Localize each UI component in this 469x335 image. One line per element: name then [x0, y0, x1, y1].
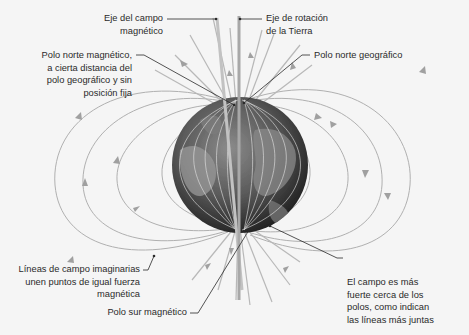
label-line: de la Tierra — [266, 25, 376, 38]
label-line: polos, como indican — [347, 301, 465, 314]
label-line: a cierta distancia del — [10, 62, 132, 75]
label-magnetic-south-pole: Polo sur magnético — [70, 306, 187, 319]
label-line: Eje de rotación — [266, 12, 376, 25]
diagram-canvas: Eje del campo magnético Eje de rotación … — [0, 0, 469, 335]
label-field-strength: El campo es más fuerte cerca de los polo… — [347, 276, 465, 326]
label-line: El campo es más — [347, 276, 465, 289]
label-line: Polo sur magnético — [70, 306, 187, 319]
label-line: fuerte cerca de los — [347, 289, 465, 302]
label-line: Eje del campo — [70, 12, 163, 25]
label-line: magnético — [70, 25, 163, 38]
label-line: Polo norte magnético, — [10, 49, 132, 62]
label-line: polo geográfico y sin — [10, 74, 132, 87]
label-rotation-axis: Eje de rotación de la Tierra — [266, 12, 376, 37]
label-field-lines: Líneas de campo imaginarias unen puntos … — [4, 263, 140, 301]
label-line: posición fija — [10, 87, 132, 100]
label-geographic-north-pole: Polo norte geográfico — [314, 49, 454, 62]
label-magnetic-axis: Eje del campo magnético — [70, 12, 163, 37]
label-line: las líneas más juntas — [347, 314, 465, 327]
label-line: Líneas de campo imaginarias — [4, 263, 140, 276]
label-line: magnética — [4, 288, 140, 301]
label-line: unen puntos de igual fuerza — [4, 276, 140, 289]
label-magnetic-north-pole: Polo norte magnético, a cierta distancia… — [10, 49, 132, 99]
label-line: Polo norte geográfico — [314, 49, 454, 62]
